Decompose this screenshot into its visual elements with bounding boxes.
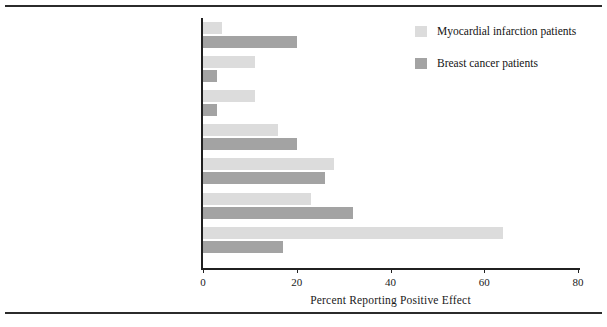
bar-group: Improved close relationships: [203, 193, 578, 221]
top-divider-rule: [5, 5, 602, 7]
bar: [203, 172, 325, 184]
bar: [203, 241, 283, 253]
bar-group: A change in personal life priorities: [203, 124, 578, 152]
legend-swatch-icon: [415, 58, 427, 69]
x-axis-tick-label: 20: [277, 276, 317, 288]
bar: [203, 207, 353, 219]
x-axis-title: Percent Reporting Positive Effect: [203, 294, 578, 306]
bar: [203, 138, 297, 150]
legend-label: Myocardial infarction patients: [437, 24, 576, 39]
bar: [203, 90, 255, 102]
legend-swatch-icon: [415, 26, 427, 37]
x-axis-tick: [578, 268, 579, 273]
bottom-divider-rule: [5, 312, 602, 314]
bar: [203, 22, 222, 34]
x-axis-tick-label: 80: [558, 276, 598, 288]
figure-canvas: 020406080 Improved empathyGreater knowle…: [0, 0, 607, 327]
bar: [203, 124, 278, 136]
bar: [203, 227, 503, 239]
bar: [203, 36, 297, 48]
bar-group: Healthy lifestyle change: [203, 227, 578, 255]
bar: [203, 56, 255, 68]
bar-group: A second chance: [203, 90, 578, 118]
bar-group: Greater appreciation of health and life: [203, 158, 578, 186]
x-axis-tick-label: 0: [183, 276, 223, 288]
legend-label: Breast cancer patients: [437, 56, 538, 71]
x-axis-tick: [484, 268, 485, 273]
bar: [203, 70, 217, 82]
bar: [203, 104, 217, 116]
x-axis-tick-label: 40: [371, 276, 411, 288]
bar: [203, 193, 311, 205]
bar: [203, 158, 334, 170]
x-axis-tick-label: 60: [464, 276, 504, 288]
x-axis-tick: [391, 268, 392, 273]
x-axis-tick: [297, 268, 298, 273]
x-axis-tick: [203, 268, 204, 273]
